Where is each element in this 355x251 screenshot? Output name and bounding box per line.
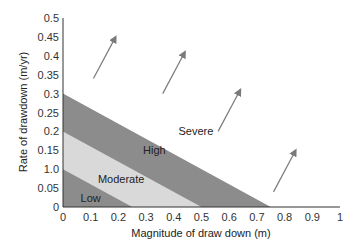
y-tick-label: 0.3 [44,88,59,100]
x-tick-label: 0.5 [194,211,209,223]
arrow-icon [163,52,185,94]
x-tick-label: 0.1 [83,211,98,223]
x-tick-label: 1 [337,211,343,223]
region-label-low: Low [81,192,101,204]
y-tick-label: 0.25 [38,107,59,119]
plot-regions [63,94,271,207]
y-tick-label: 0.15 [38,144,59,156]
x-tick-label: 0 [60,211,66,223]
chart: LowModerateHighSevere 00.10.20.30.40.50.… [0,0,355,251]
y-tick-label: 0.5 [44,12,59,24]
x-tick-label: 0.8 [277,211,292,223]
x-tick-label: 0.2 [111,211,126,223]
y-axis-title: Rate of drawdown (m/yr) [17,52,29,172]
region-label-moderate: Moderate [98,173,144,185]
x-tick-label: 0.3 [138,211,153,223]
y-tick-label: 0.35 [38,69,59,81]
arrow-icon [93,37,115,79]
x-tick-label: 0.4 [166,211,181,223]
y-tick-label: 0.4 [44,50,59,62]
x-axis-title: Magnitude of draw down (m) [131,227,270,239]
y-tick-label: 0.2 [44,125,59,137]
region-label-severe: Severe [179,125,214,137]
region-label-high: High [143,144,166,156]
y-tick-label: 0.45 [38,31,59,43]
y-tick-label: 0 [53,201,59,213]
x-tick-label: 0.9 [305,211,320,223]
arrow-icon [274,150,296,192]
y-tick-label: 0.05 [38,182,59,194]
y-tick-label: 1.0 [44,163,59,175]
x-tick-labels: 00.10.20.30.40.50.60.70.80.91 [60,211,343,223]
y-tick-labels: 00.051.00.150.20.250.30.350.40.450.5 [38,12,59,213]
x-tick-label: 0.7 [249,211,264,223]
x-tick-label: 0.6 [222,211,237,223]
arrow-icon [218,90,240,132]
